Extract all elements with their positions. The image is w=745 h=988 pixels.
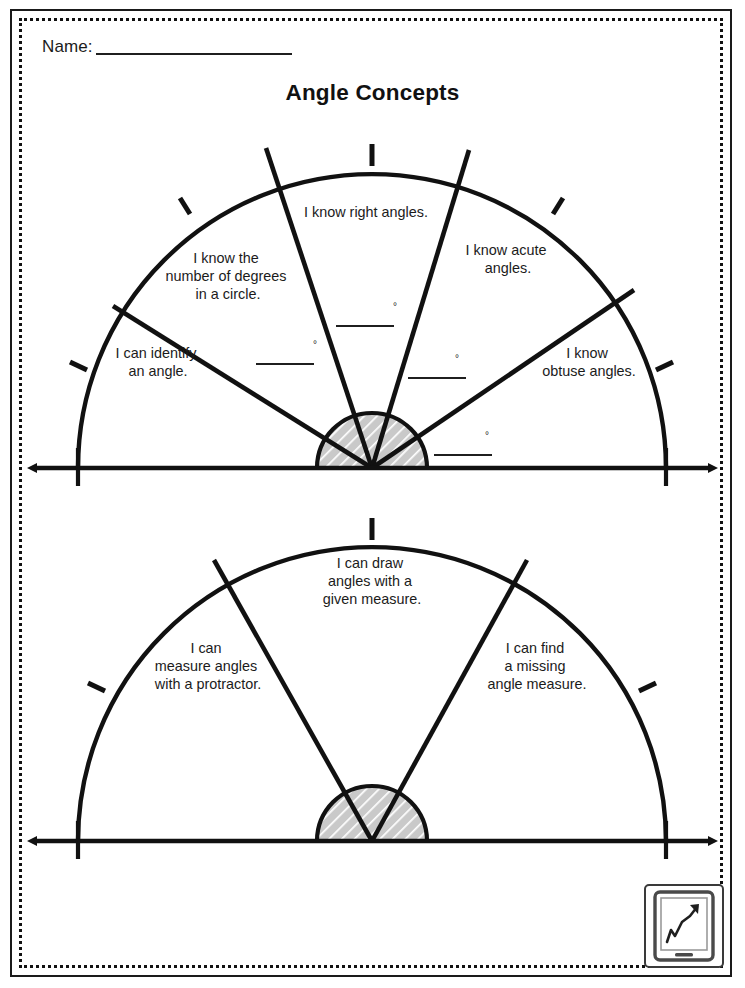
degree-symbol-4: ° <box>485 430 489 441</box>
answer-blank-3[interactable]: ° <box>408 353 466 378</box>
sector-label-obtuse-angles: I know obtuse angles. <box>542 345 636 379</box>
ray-145deg <box>113 306 372 468</box>
resource-badge <box>644 884 724 968</box>
degree-symbol-3: ° <box>455 353 459 364</box>
name-write-in-line[interactable] <box>96 53 292 55</box>
name-label: Name: <box>42 38 93 57</box>
answer-blank-1[interactable]: ° <box>256 339 317 364</box>
bottom-protractor-diagram: I can measure angles with a protractor. … <box>0 505 745 875</box>
top-protractor-diagram: I can identify an angle. I know the numb… <box>0 130 745 490</box>
tablet-growth-chart-icon <box>646 886 722 966</box>
sector-label-right-angles: I know right angles. <box>304 204 428 220</box>
sector-label-measure-with-protractor: I can measure angles with a protractor. <box>154 640 261 692</box>
worksheet-page: Name: Angle Concepts <box>0 0 745 988</box>
sector-label-acute-angles: I know acute angles. <box>466 242 551 276</box>
degree-symbol-2: ° <box>393 301 397 312</box>
page-title: Angle Concepts <box>0 80 745 106</box>
degree-symbol-1: ° <box>313 339 317 350</box>
bottom-sector-labels: I can measure angles with a protractor. … <box>154 555 587 692</box>
ray-34deg <box>372 290 634 468</box>
top-sector-labels: I can identify an angle. I know the numb… <box>116 204 636 379</box>
name-field-row: Name: <box>42 38 292 57</box>
ray-73deg <box>372 150 469 468</box>
sector-label-identify-angle: I can identify an angle. <box>116 345 201 379</box>
answer-blank-4[interactable]: ° <box>434 430 492 455</box>
answer-blank-2[interactable]: ° <box>336 301 397 326</box>
bottom-protractor-hub <box>317 786 427 841</box>
sector-label-find-missing-measure: I can find a missing angle measure. <box>487 640 586 692</box>
ray-108deg <box>266 148 372 468</box>
sector-label-draw-given-measure: I can draw angles with a given measure. <box>323 555 421 607</box>
sector-label-degrees-in-circle: I know the number of degrees in a circle… <box>166 250 291 302</box>
